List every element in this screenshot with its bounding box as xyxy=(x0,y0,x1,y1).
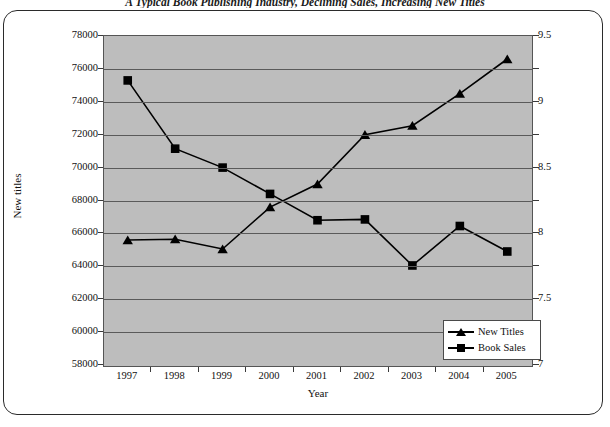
x-axis-tick-label: 2004 xyxy=(448,370,469,382)
y-axis-tick-mark xyxy=(533,200,539,201)
data-point-marker xyxy=(265,202,275,211)
series-line-book-sales xyxy=(128,80,508,265)
x-axis-tick-label: 2000 xyxy=(259,370,280,382)
x-axis-tick-label: 2003 xyxy=(401,370,422,382)
x-axis-labels: 199719981999200020012002200320042005 xyxy=(103,370,533,386)
y-axis-left-tick-label: 68000 xyxy=(72,195,98,205)
data-point-marker xyxy=(361,215,370,224)
y-axis-left-tick-label: 64000 xyxy=(72,260,98,270)
x-axis-tick-label: 2005 xyxy=(496,370,517,382)
triangle-marker-icon xyxy=(448,325,474,339)
x-axis-title: Year xyxy=(103,387,533,399)
y-axis-left-tick-label: 62000 xyxy=(72,293,98,303)
y-axis-right-labels: 9.598.587.57 xyxy=(538,35,578,367)
gridline xyxy=(104,201,532,202)
y-axis-left-tick-label: 70000 xyxy=(72,162,98,172)
x-axis-tick-label: 1997 xyxy=(116,370,137,382)
data-point-marker xyxy=(123,76,132,85)
y-axis-tick-mark xyxy=(533,265,539,266)
y-axis-left-title: New titles xyxy=(11,146,23,246)
y-axis-tick-mark xyxy=(533,167,539,168)
x-axis-tick-label: 2001 xyxy=(306,370,327,382)
y-axis-right-ticks xyxy=(533,35,540,367)
chart-figure: A Typical Book Publishing Industry, Decl… xyxy=(0,0,610,427)
y-axis-left-tick-label: 66000 xyxy=(72,227,98,237)
y-axis-tick-mark xyxy=(533,364,539,365)
data-point-marker xyxy=(503,247,512,256)
y-axis-tick-mark xyxy=(533,298,539,299)
data-point-marker xyxy=(456,222,465,231)
x-axis-tick-label: 2002 xyxy=(353,370,374,382)
legend-item-book-sales[interactable]: Book Sales xyxy=(448,340,536,356)
y-axis-left-tick-label: 76000 xyxy=(72,63,98,73)
page-title: A Typical Book Publishing Industry, Decl… xyxy=(0,0,610,8)
data-point-marker xyxy=(171,144,180,153)
y-axis-left-labels: 7800076000740007200070000680006600064000… xyxy=(40,35,98,367)
square-marker-icon xyxy=(448,341,474,355)
legend-item-new-titles[interactable]: New Titles xyxy=(448,324,536,340)
data-point-marker xyxy=(502,54,512,63)
y-axis-tick-mark xyxy=(533,101,539,102)
chart-legend: New Titles Book Sales xyxy=(443,320,541,360)
y-axis-tick-mark xyxy=(533,68,539,69)
legend-label: Book Sales xyxy=(474,341,526,355)
gridline xyxy=(104,69,532,70)
gridline xyxy=(104,102,532,103)
y-axis-tick-mark xyxy=(533,134,539,135)
gridline xyxy=(104,168,532,169)
gridline xyxy=(104,299,532,300)
gridline xyxy=(104,266,532,267)
y-axis-tick-mark xyxy=(533,35,539,36)
x-axis-tick-label: 1999 xyxy=(211,370,232,382)
data-point-marker xyxy=(313,216,322,225)
legend-label: New Titles xyxy=(474,325,524,339)
y-axis-left-tick-label: 78000 xyxy=(72,30,98,40)
y-axis-left-tick-label: 60000 xyxy=(72,326,98,336)
plot-area xyxy=(103,35,533,367)
y-axis-left-tick-label: 74000 xyxy=(72,96,98,106)
y-axis-tick-mark xyxy=(533,232,539,233)
gridline xyxy=(104,135,532,136)
x-axis-tick-label: 1998 xyxy=(164,370,185,382)
y-axis-left-tick-label: 72000 xyxy=(72,129,98,139)
gridline xyxy=(104,233,532,234)
y-axis-left-tick-label: 58000 xyxy=(72,359,98,369)
data-point-marker xyxy=(266,190,275,199)
